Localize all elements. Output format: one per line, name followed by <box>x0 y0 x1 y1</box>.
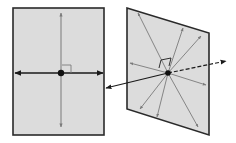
intersection-point <box>58 70 64 76</box>
foot-of-perpendicular-point <box>165 70 171 76</box>
right-plane-panel <box>106 8 226 135</box>
left-plane-panel <box>13 8 104 135</box>
diagram-stage: Line perpendicular to a plane <box>0 0 236 143</box>
perpendicular-line-diagram <box>0 0 236 143</box>
